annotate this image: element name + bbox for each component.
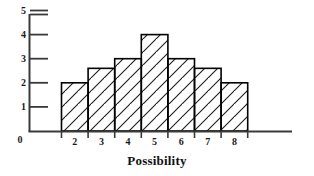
x-tick-label: 8 [224,137,244,147]
bar-fill [195,68,222,131]
bar-fill [221,83,248,131]
y-tick-label: 2 [12,78,26,88]
x-tick-label: 4 [118,137,138,147]
bars-group [62,35,248,131]
x-tick-label: 3 [91,137,111,147]
bar-fill [62,83,89,131]
bar-fill [141,35,168,131]
y-tick-label: 3 [12,54,26,64]
chart-canvas [0,0,314,176]
x-tick-label: 6 [171,137,191,147]
y-axis-ticks [30,11,48,107]
y-tick-label: 4 [12,30,26,40]
y-tick-label: 1 [12,102,26,112]
y-tick-label: 5 [12,6,26,16]
x-tick-label: 2 [65,137,85,147]
x-tick-label: 5 [145,137,165,147]
bar-fill [115,59,142,131]
origin-label: 0 [14,135,26,145]
x-tick-label: 7 [198,137,218,147]
bar-fill [168,59,195,131]
x-axis-title: Possibility [0,153,314,169]
bar-fill [88,68,115,131]
histogram-figure: 12345 2345678 0 Possibility [0,0,314,176]
